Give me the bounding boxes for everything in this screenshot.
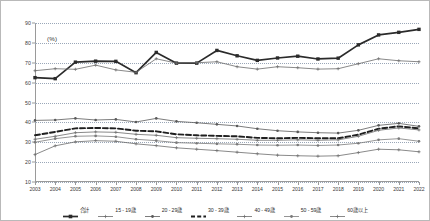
x-tick-mark [55, 182, 56, 185]
x-tick-mark [298, 182, 299, 185]
legend-label: 50 - 59歳 [301, 206, 321, 213]
x-tick-mark [338, 182, 339, 185]
legend-item-1[interactable]: 15 - 19歳 [98, 206, 135, 213]
legend-item-3[interactable]: 30 - 39歳 [191, 206, 228, 213]
series-1 [33, 57, 420, 74]
x-tick-mark [318, 182, 319, 185]
x-tick-mark [116, 182, 117, 185]
x-tick-mark [136, 182, 137, 185]
x-tick-label: 2003 [30, 186, 41, 192]
x-axis: 2003200420052006200720082009201020112012… [35, 182, 419, 200]
legend-label: 30 - 39歳 [208, 206, 228, 213]
y-tick-label: 90 [25, 20, 31, 26]
series-6 [33, 139, 420, 158]
x-tick-label: 2009 [151, 186, 162, 192]
x-tick-mark [257, 182, 258, 185]
y-tick-label: 40 [25, 119, 31, 125]
plot-area: 102030405060708090 (%) [35, 23, 419, 182]
y-tick-label: 30 [25, 139, 31, 145]
x-tick-label: 2014 [252, 186, 263, 192]
x-tick-mark [358, 182, 359, 185]
legend-swatch-icon [145, 206, 160, 213]
x-tick-mark [75, 182, 76, 185]
legend-swatch-icon [330, 206, 345, 213]
x-tick-label: 2017 [312, 186, 323, 192]
x-tick-label: 2008 [131, 186, 142, 192]
x-tick-label: 2006 [90, 186, 101, 192]
y-tick-label: 10 [25, 179, 31, 185]
x-tick-label: 2015 [272, 186, 283, 192]
x-tick-label: 2012 [211, 186, 222, 192]
y-tick-label: 50 [25, 100, 31, 106]
chart-figure: 102030405060708090 (%) 20032004200520062… [0, 0, 430, 221]
x-tick-label: 2020 [373, 186, 384, 192]
x-tick-mark [278, 182, 279, 185]
legend-swatch-icon [98, 206, 113, 213]
legend-item-0[interactable]: 合計 [63, 206, 90, 213]
x-tick-label: 2013 [232, 186, 243, 192]
legend-swatch-icon [237, 206, 252, 213]
x-tick-label: 2011 [191, 186, 202, 192]
x-tick-mark [197, 182, 198, 185]
x-tick-mark [379, 182, 380, 185]
y-tick-label: 60 [25, 80, 31, 86]
x-tick-label: 2016 [292, 186, 303, 192]
y-tick-label: 70 [25, 60, 31, 66]
x-tick-mark [96, 182, 97, 185]
x-tick-label: 2004 [50, 186, 61, 192]
x-tick-label: 2010 [171, 186, 182, 192]
x-tick-mark [399, 182, 400, 185]
x-tick-label: 2022 [414, 186, 425, 192]
x-tick-label: 2021 [393, 186, 404, 192]
legend-item-5[interactable]: 50 - 59歳 [284, 206, 321, 213]
series-0 [33, 28, 420, 81]
legend-item-2[interactable]: 20 - 29歳 [145, 206, 182, 213]
legend-label: 合計 [80, 206, 90, 213]
x-tick-label: 2019 [353, 186, 364, 192]
x-tick-label: 2018 [333, 186, 344, 192]
x-tick-mark [419, 182, 420, 185]
legend-swatch-icon [191, 206, 206, 213]
legend-item-4[interactable]: 40 - 49歳 [237, 206, 274, 213]
x-tick-label: 2007 [110, 186, 121, 192]
legend-label: 40 - 49歳 [254, 206, 274, 213]
x-tick-mark [156, 182, 157, 185]
x-tick-mark [237, 182, 238, 185]
x-tick-label: 2005 [70, 186, 81, 192]
x-tick-mark [176, 182, 177, 185]
x-tick-mark [35, 182, 36, 185]
legend-swatch-icon [284, 206, 299, 213]
legend-swatch-icon [63, 206, 78, 213]
legend-label: 60歳以上 [347, 206, 367, 213]
series-layer [35, 23, 419, 182]
y-tick-label: 20 [25, 159, 31, 165]
legend-label: 15 - 19歳 [115, 206, 135, 213]
legend-item-6[interactable]: 60歳以上 [330, 206, 367, 213]
chart-legend: 合計15 - 19歳20 - 29歳30 - 39歳40 - 49歳50 - 5… [1, 206, 429, 213]
legend-label: 20 - 29歳 [162, 206, 182, 213]
y-tick-label: 80 [25, 40, 31, 46]
x-tick-mark [217, 182, 218, 185]
